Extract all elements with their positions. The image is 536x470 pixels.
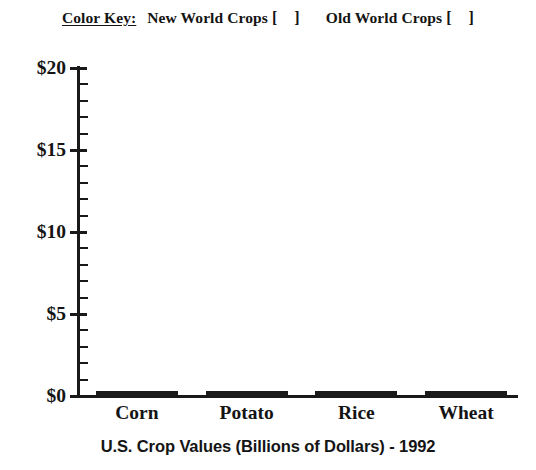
bar-rice[interactable] (315, 391, 397, 396)
bar-chart: Color Key: New World Crops[] Old World C… (0, 0, 536, 470)
bar-corn[interactable] (96, 391, 178, 396)
chart-title: U.S. Crop Values (Billions of Dollars) -… (0, 437, 536, 456)
bar-potato[interactable] (206, 391, 288, 396)
x-axis-label-wheat: Wheat (396, 401, 536, 424)
x-axis-category-labels: CornPotatoRiceWheat (0, 401, 536, 427)
bars-layer (0, 0, 536, 396)
bar-wheat[interactable] (425, 391, 507, 396)
